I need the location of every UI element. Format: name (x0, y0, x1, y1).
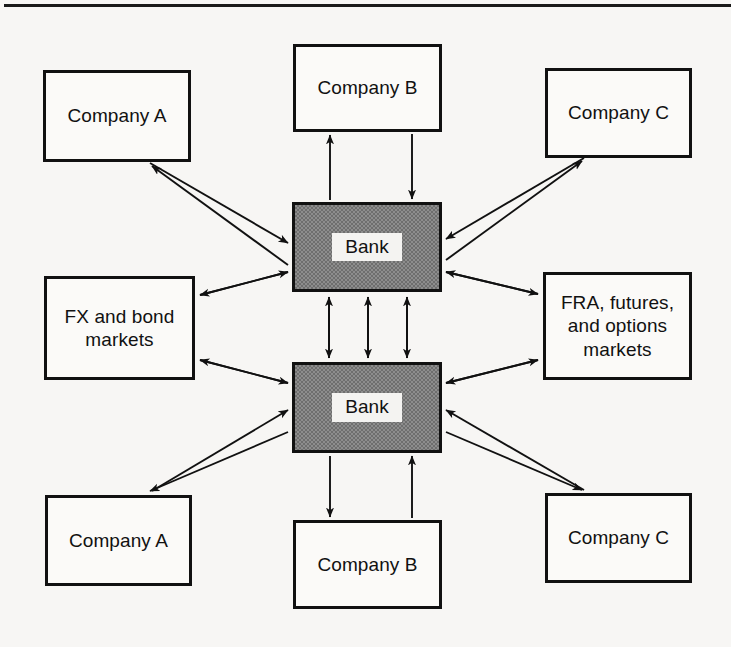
node-company-a-top[interactable]: Company A (43, 70, 191, 162)
edge-company-c-top-to-bank-top (446, 158, 584, 239)
edge-bank-bottom-to-company-c-bottom (446, 432, 582, 490)
node-fra-futures-options-markets[interactable]: FRA, futures, and options markets (543, 272, 692, 380)
edge-bank-top-to-fx (200, 272, 288, 295)
node-fx-and-bond-markets-label: FX and bond markets (59, 305, 181, 351)
figure-canvas: Company A Company B Company C FX and bon… (0, 0, 731, 647)
edge-fra-to-bank-top (446, 272, 538, 294)
edge-bank-top-to-company-a-top (152, 166, 288, 265)
edge-bank-top-to-company-c-top (446, 161, 582, 260)
edge-company-a-bottom-to-bank-bottom (152, 410, 288, 491)
edge-company-c-bottom-to-bank-bottom (446, 410, 584, 490)
edge-company-a-top-to-bank-top (150, 163, 288, 243)
node-fx-and-bond-markets[interactable]: FX and bond markets (44, 276, 195, 380)
edge-bank-bottom-to-company-a-bottom (150, 432, 288, 491)
node-company-b-top-label: Company B (311, 76, 423, 99)
node-company-a-bottom[interactable]: Company A (45, 495, 192, 586)
node-company-c-top[interactable]: Company C (545, 68, 692, 158)
node-fra-futures-options-markets-label: FRA, futures, and options markets (555, 291, 680, 361)
node-company-a-top-label: Company A (61, 104, 172, 127)
edge-fra-to-bank-bottom (446, 360, 538, 383)
node-company-c-top-label: Company C (562, 101, 675, 124)
node-company-c-bottom-label: Company C (562, 526, 675, 549)
node-bank-top[interactable]: Bank (292, 202, 442, 292)
edge-bank-bottom-to-fx (200, 360, 288, 383)
node-company-b-bottom-label: Company B (311, 553, 423, 576)
node-company-b-top[interactable]: Company B (293, 44, 442, 132)
node-company-a-bottom-label: Company A (63, 529, 174, 552)
node-company-b-bottom[interactable]: Company B (293, 520, 442, 609)
node-company-c-bottom[interactable]: Company C (545, 493, 692, 583)
node-bank-top-label: Bank (332, 233, 402, 261)
node-bank-bottom-label: Bank (332, 393, 402, 421)
node-bank-bottom[interactable]: Bank (292, 362, 442, 453)
